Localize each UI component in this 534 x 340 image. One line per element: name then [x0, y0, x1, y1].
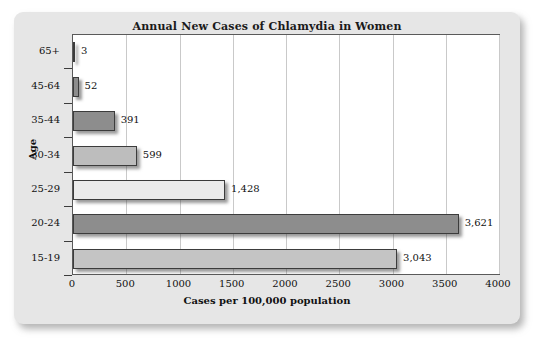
bar-value-label: 1,428	[231, 183, 260, 194]
y-axis-tick	[64, 68, 72, 69]
y-axis-tick	[64, 137, 72, 138]
bar-value-label: 3	[81, 45, 87, 56]
y-axis-tick	[64, 241, 72, 242]
bar-value-label: 391	[121, 114, 140, 125]
x-axis-label-3000: 3000	[367, 278, 417, 289]
x-axis-label-1000: 1000	[154, 278, 204, 289]
y-axis-tick	[64, 275, 72, 276]
x-axis-label-3500: 3500	[420, 278, 470, 289]
x-axis-label-0: 0	[47, 278, 97, 289]
bar-row: 599	[73, 146, 501, 166]
bar-row: 3,621	[73, 214, 501, 234]
x-axis-label-500: 500	[100, 278, 150, 289]
bar-row: 391	[73, 111, 501, 131]
x-axis-title: Cases per 100,000 population	[14, 295, 520, 306]
bar-value-label: 599	[143, 149, 162, 160]
y-axis-tick	[64, 103, 72, 104]
bar-15-19	[73, 249, 397, 269]
y-axis-label-15-19: 15-19	[16, 252, 60, 263]
bar-20-24	[73, 214, 459, 234]
x-axis-label-2000: 2000	[260, 278, 310, 289]
bar-row: 3,043	[73, 249, 501, 269]
y-axis-label-30-34: 30-34	[16, 149, 60, 160]
bar-row: 3	[73, 42, 501, 62]
x-axis-label-4000: 4000	[473, 278, 523, 289]
y-axis-label-35-44: 35-44	[16, 114, 60, 125]
bar-30-34	[73, 146, 137, 166]
y-axis-label-45-64: 45-64	[16, 80, 60, 91]
x-axis-label-2500: 2500	[313, 278, 363, 289]
bar-value-label: 3,043	[403, 252, 432, 263]
plot-area: 3523915991,4283,6213,043	[72, 34, 500, 275]
bar-35-44	[73, 111, 115, 131]
y-axis-label-20-24: 20-24	[16, 217, 60, 228]
y-axis-label-25-29: 25-29	[16, 183, 60, 194]
bar-row: 1,428	[73, 180, 501, 200]
chart-title: Annual New Cases of Chlamydia in Women	[14, 20, 520, 33]
bar-value-label: 3,621	[465, 217, 494, 228]
figure-card: Annual New Cases of Chlamydia in Women A…	[14, 12, 520, 324]
y-axis-label-65plus: 65+	[16, 45, 60, 56]
bar-value-label: 52	[85, 80, 98, 91]
y-axis-tick	[64, 172, 72, 173]
bar-65plus	[73, 42, 75, 62]
x-axis-label-1500: 1500	[207, 278, 257, 289]
bar-25-29	[73, 180, 225, 200]
y-axis-tick	[64, 206, 72, 207]
bar-row: 52	[73, 77, 501, 97]
bar-45-64	[73, 77, 79, 97]
